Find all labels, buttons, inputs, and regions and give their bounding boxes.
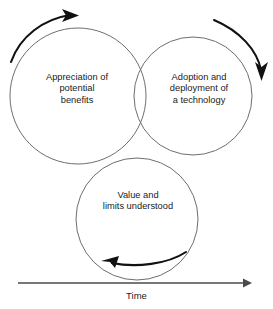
right-arrow-head <box>255 62 268 81</box>
circle-label-appreciation-line-1: Appreciation of <box>22 72 132 83</box>
circle-label-adoption-line-1: Adoption and <box>146 72 252 83</box>
circle-label-value-line-2: limits understood <box>77 201 199 212</box>
top-left-curved-arrow <box>11 9 79 62</box>
circle-label-value: Value and limits understood <box>77 190 199 213</box>
time-axis-arrow-head <box>243 279 252 288</box>
bottom-arrow-head <box>101 256 119 268</box>
circle-label-adoption: Adoption and deployment of a technology <box>146 72 252 106</box>
bottom-curved-arrow <box>101 252 186 268</box>
venn-circle-value <box>76 158 198 280</box>
circle-label-adoption-line-3: a technology <box>146 95 252 106</box>
circle-label-appreciation-line-3: benefits <box>22 95 132 106</box>
diagram-canvas <box>0 0 273 309</box>
diagram-root: Appreciation of potential benefits Adopt… <box>0 0 273 309</box>
time-axis-label: Time <box>0 290 273 301</box>
circle-label-appreciation: Appreciation of potential benefits <box>22 72 132 106</box>
circle-label-appreciation-line-2: potential <box>22 83 132 94</box>
circle-label-value-line-1: Value and <box>77 190 199 201</box>
circle-label-adoption-line-2: deployment of <box>146 83 252 94</box>
